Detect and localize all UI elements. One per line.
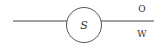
node-label: S <box>80 19 88 32</box>
signal-flow-diagram: S O W <box>0 0 162 50</box>
edge-label-top: O <box>138 4 145 14</box>
edge-label-bottom: W <box>137 29 147 39</box>
diagram-canvas: S O W <box>0 0 162 50</box>
